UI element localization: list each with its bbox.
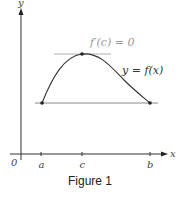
tick-label-a: a (39, 159, 45, 170)
x-axis-label: x (170, 148, 176, 159)
origin-label: 0 (11, 157, 18, 168)
tick-label-c: c (80, 159, 86, 170)
point-b (148, 101, 152, 105)
tick-label-b: b (147, 159, 153, 170)
point-a (40, 101, 44, 105)
curve-f (42, 54, 150, 103)
point-c (80, 52, 84, 56)
derivative-annotation: f′(c) = 0 (89, 36, 135, 49)
curve-annotation: y = f(x) (121, 64, 163, 77)
y-axis-label: y (17, 0, 24, 8)
y-axis-arrow-icon (19, 8, 24, 15)
x-axis-arrow-icon (161, 152, 168, 157)
rolle-theorem-figure: y x 0 a c b f′(c) = 0 y = f(x) Figure 1 (0, 0, 184, 199)
figure-caption: Figure 1 (68, 174, 112, 188)
